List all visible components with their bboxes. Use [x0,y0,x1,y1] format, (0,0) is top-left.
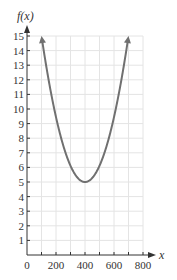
y-tick-label: 10 [13,103,25,115]
x-tick-label: 0 [24,259,30,271]
x-axis-title: x [158,248,165,262]
y-tick-label: 6 [19,161,25,173]
y-tick-label: 1 [19,234,25,246]
y-tick-label: 11 [13,88,24,100]
x-tick-label: 600 [106,259,123,271]
y-axis-title: f(x) [17,9,34,23]
tick-labels: 0200400600800123456789101112131415 [13,30,152,271]
x-tick-label: 400 [77,259,94,271]
y-tick-label: 12 [13,74,24,86]
y-tick-label: 7 [19,147,25,159]
y-tick-label: 15 [13,30,25,42]
x-axis-arrow-icon [148,252,156,258]
y-axis-arrow-icon [24,25,30,33]
x-tick-label: 800 [135,259,152,271]
series-right-arrow-icon [124,36,131,43]
y-tick-label: 2 [19,220,25,232]
grid [27,36,143,255]
y-tick-label: 14 [13,45,25,57]
chart: x f(x) 020040060080012345678910111213141… [0,0,177,280]
y-tick-label: 5 [19,176,25,188]
x-tick-label: 200 [48,259,65,271]
series-left-arrow-icon [39,36,46,43]
y-tick-label: 9 [19,118,25,130]
y-tick-label: 8 [19,132,25,144]
y-tick-label: 4 [19,191,25,203]
y-tick-label: 3 [19,205,25,217]
y-tick-label: 13 [13,59,25,71]
